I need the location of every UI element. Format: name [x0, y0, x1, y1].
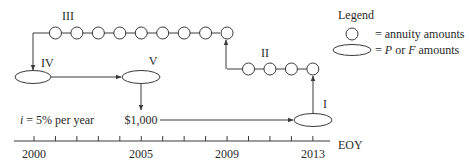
annuity-circle	[49, 27, 61, 39]
legend-circle-icon	[346, 28, 358, 40]
tick-label-2013: 2013	[301, 147, 325, 161]
ellipse-I	[294, 114, 332, 127]
legend-title: Legend	[338, 8, 374, 22]
annuity-circle	[178, 27, 190, 39]
annuity-circle	[71, 27, 83, 39]
ellipse-V	[122, 71, 160, 84]
annuity-circle	[285, 63, 297, 75]
annuity-circle	[157, 27, 169, 39]
step-label-II: II	[261, 46, 269, 60]
legend-pf-text: = P or F amounts	[375, 43, 459, 57]
legend: Legend = annuity amounts = P or F amount…	[333, 8, 465, 57]
annuity-circle	[307, 63, 319, 75]
step-label-IV: IV	[41, 56, 54, 70]
amount-label: $1,000	[125, 113, 158, 127]
series-II: II	[227, 46, 319, 75]
annuity-circle	[221, 27, 233, 39]
tick-label-2009: 2009	[215, 147, 239, 161]
tick-label-2005: 2005	[129, 147, 153, 161]
ellipse-IV	[15, 71, 51, 84]
annuity-circle	[243, 63, 255, 75]
cash-flow-diagram: 2000 2005 2009 2013 EOY i = 5% per year …	[0, 0, 469, 165]
annuity-circle	[114, 27, 126, 39]
tick-label-2000: 2000	[22, 147, 46, 161]
axis-ticks	[34, 136, 313, 141]
step-label-III: III	[62, 9, 74, 23]
annuity-circle	[264, 63, 276, 75]
time-axis: 2000 2005 2009 2013 EOY	[14, 136, 363, 161]
annuity-circle	[135, 27, 147, 39]
annuity-circle	[92, 27, 104, 39]
interest-text: = 5% per year	[23, 113, 94, 127]
step-label-V: V	[149, 54, 158, 68]
step-label-I: I	[323, 97, 327, 111]
axis-unit-label: EOY	[338, 138, 363, 152]
legend-annuity-text: = annuity amounts	[375, 27, 465, 41]
series-III: III	[33, 9, 233, 39]
series-III-circles	[49, 27, 233, 39]
annuity-circle	[200, 27, 212, 39]
legend-ellipse-icon	[333, 45, 371, 56]
interest-rate-label: i = 5% per year	[20, 113, 94, 127]
